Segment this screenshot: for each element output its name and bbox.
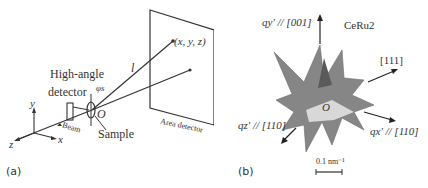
- scale-bar-label: 0.1 nm⁻¹: [316, 158, 345, 166]
- panel-b-reciprocal-space: qy' // [001] CeRu2 [111] O qz' // [110] …: [214, 0, 428, 188]
- label-direction-111: [111]: [380, 55, 403, 66]
- label-origin-b: O: [322, 102, 330, 113]
- label-origin: O: [97, 108, 106, 120]
- axis-label-x: x: [58, 134, 63, 145]
- label-sample: Sample: [98, 128, 134, 140]
- area-detector-plane: [150, 10, 214, 125]
- panel-a-setup: High-angle detector φs (x, y, z) l O Sam…: [0, 0, 214, 188]
- panel-label-b: (b): [238, 166, 254, 177]
- label-qy: qy' // [001]: [262, 17, 311, 28]
- label-high-angle: High-angle: [50, 68, 104, 80]
- label-material: CeRu2: [344, 20, 375, 31]
- setup-schematic: [0, 0, 214, 188]
- label-phi: φs: [96, 84, 104, 93]
- label-distance-l: l: [131, 62, 134, 74]
- axis-label-y: y: [30, 98, 35, 109]
- label-qx: qx' // [110]: [370, 126, 419, 137]
- axis-label-z: z: [9, 139, 13, 150]
- panel-label-a: (a): [6, 166, 21, 177]
- label-coordinate: (x, y, z): [174, 36, 206, 47]
- label-detector: detector: [48, 86, 87, 98]
- label-qz: qz' // [110]: [238, 120, 286, 131]
